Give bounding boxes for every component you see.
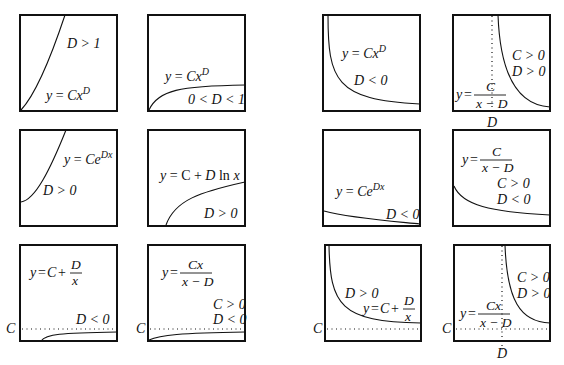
fraction-denominator: x − D <box>181 274 214 289</box>
condition-c: C > 0 <box>213 297 246 312</box>
fraction-numerator: D <box>70 257 81 272</box>
formula-eq: = <box>464 87 472 102</box>
formula-eq: = <box>470 152 478 167</box>
condition-label: D < 0 <box>75 312 110 327</box>
function-graphs-figure: D > 1 y = CxD y = CxD 0 < D < 1 y = CxD … <box>0 0 564 365</box>
condition-label: 0 < D < 1 <box>188 92 245 107</box>
formula-plus: + <box>391 301 399 316</box>
formula-eq: = <box>371 301 379 316</box>
axis-mark-c: C <box>313 321 323 336</box>
condition-label: D > 0 <box>203 206 238 221</box>
formula-plus: + <box>58 265 66 280</box>
panel-c-plus-d-over-x-d-lt-0: y = C + D x D < 0 C <box>6 245 117 341</box>
panel-reciprocal-d-gt-0: C > 0 D > 0 y = C x − D D <box>453 15 550 130</box>
condition-label: D < 0 <box>385 207 420 222</box>
panel-power-d-lt-0: y = CxD D < 0 <box>323 15 420 111</box>
formula-eq: = <box>38 265 46 280</box>
condition-label: D > 0 <box>344 286 379 301</box>
formula-y: y <box>28 265 37 280</box>
formula-eq: = <box>170 265 178 280</box>
condition-c: C > 0 <box>512 48 545 63</box>
panel-log-d-gt-0: y = C + D ln x D > 0 <box>148 130 245 226</box>
formula-c: C <box>380 301 390 316</box>
fraction-numerator: C <box>492 144 502 159</box>
panel-exp-d-gt-0: y = CeDx D > 0 <box>20 130 117 226</box>
fraction-denominator: x − D <box>479 315 512 330</box>
axis-mark-d: D <box>496 346 507 361</box>
formula-label: y = C + D ln x <box>158 168 240 183</box>
condition-d: D > 0 <box>511 64 546 79</box>
formula-eq: = <box>468 306 476 321</box>
panel-cx-over-x-minus-d-d-gt-0: C > 0 D > 0 y = Cx x − D C D <box>442 245 551 361</box>
condition-label: D < 0 <box>353 73 388 88</box>
panel-c-plus-d-over-x-d-gt-0: D > 0 y = C + D x C <box>313 245 421 341</box>
fraction-denominator: x − D <box>475 96 508 111</box>
axis-mark-c: C <box>6 321 16 336</box>
fraction-numerator: C <box>486 79 496 94</box>
condition-c: C > 0 <box>517 270 550 285</box>
fraction-denominator: x <box>404 309 411 324</box>
axis-mark-c: C <box>136 321 146 336</box>
condition-c: C > 0 <box>497 176 530 191</box>
panel-frame <box>323 15 420 111</box>
fraction-denominator: x <box>71 273 78 288</box>
axis-mark-c: C <box>442 321 452 336</box>
panel-exp-d-lt-0: y = CeDx D < 0 <box>323 130 420 226</box>
formula-y: y <box>361 301 370 316</box>
condition-label: D > 1 <box>66 36 101 51</box>
condition-label: D > 0 <box>42 183 77 198</box>
fraction-numerator: Cx <box>188 257 203 272</box>
panel-power-d-gt-1: D > 1 y = CxD <box>20 15 117 111</box>
formula-label: y = CeDx <box>62 149 113 167</box>
hyperbola-curve <box>41 332 117 341</box>
formula-y: y <box>160 265 169 280</box>
panel-frame <box>20 130 117 226</box>
condition-d: D < 0 <box>496 192 531 207</box>
hyperbola-curve <box>149 332 245 340</box>
condition-d: D > 0 <box>516 286 551 301</box>
formula-y: y <box>454 87 463 102</box>
formula-label: y = CxD <box>44 85 91 103</box>
fraction-numerator: Cx <box>486 298 501 313</box>
formula-y: y <box>460 152 469 167</box>
formula-label: y = CxD <box>163 66 210 84</box>
panel-cx-over-x-minus-d-d-lt-0: y = Cx x − D C > 0 D < 0 C <box>136 245 247 341</box>
formula-label: y = CxD <box>340 43 387 61</box>
panel-reciprocal-d-lt-0: y = C x − D C > 0 D < 0 <box>453 130 550 226</box>
condition-d: D < 0 <box>212 312 247 327</box>
formula-c: C <box>47 265 57 280</box>
panel-power-d-between-0-1: y = CxD 0 < D < 1 <box>148 15 245 111</box>
formula-y: y <box>458 306 467 321</box>
fraction-denominator: x − D <box>481 160 514 175</box>
formula-label: y = CeDx <box>334 181 385 199</box>
fraction-numerator: D <box>403 293 414 308</box>
axis-mark-d: D <box>486 115 497 130</box>
